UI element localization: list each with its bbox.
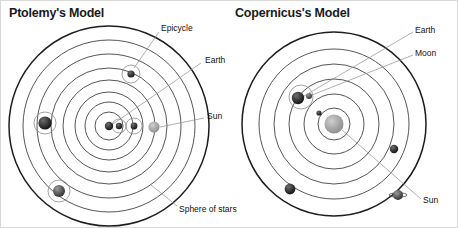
label-copernicus-sun: Sun: [423, 195, 438, 205]
copernicus-mercury-body: [316, 110, 321, 115]
copernicus-model-group: [242, 32, 426, 216]
label-ptolemy-earth: Earth: [205, 55, 225, 65]
ptolemy-earth-body: [105, 122, 113, 130]
label-copernicus-moon: Moon: [415, 48, 436, 58]
label-ptolemy-epicycle: Epicycle: [161, 23, 193, 33]
label-copernicus-earth: Earth: [415, 25, 435, 35]
label-ptolemy-sphere-of-stars: Sphere of stars: [179, 204, 237, 214]
label-ptolemy-sun: Sun: [207, 111, 222, 121]
ptolemy-planet-inner-1: [116, 123, 122, 129]
ptolemy-leader-sphere: [151, 185, 177, 206]
ptolemy-leader-epicycle: [134, 32, 159, 68]
copernicus-planet-lower-left: [285, 184, 296, 195]
ptolemy-planet-left: [38, 116, 51, 129]
copernicus-earth-body: [292, 92, 304, 104]
ptolemy-planet-lower-left: [53, 185, 65, 197]
astronomy-diagram-figure: Ptolemy's Model Copernicus's Model Epicy…: [0, 0, 458, 228]
ptolemy-model-group: [9, 26, 209, 226]
ptolemy-planet-inner-2: [131, 123, 138, 130]
saturn-sphere: [393, 190, 403, 200]
ptolemy-planet-top: [127, 70, 134, 77]
copernicus-sun-body: [325, 115, 344, 134]
diagram-canvas: [1, 1, 458, 228]
page-title-ptolemy: Ptolemy's Model: [9, 6, 104, 20]
page-title-copernicus: Copernicus's Model: [235, 6, 350, 20]
copernicus-planet-right: [390, 145, 398, 153]
ptolemy-sun-body: [148, 121, 159, 132]
